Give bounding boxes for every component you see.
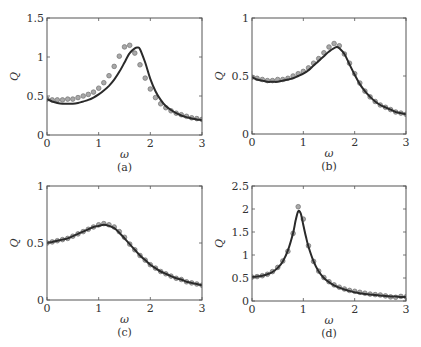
x-axis-label: ω: [325, 314, 334, 327]
x-tick-label: 1: [95, 137, 102, 150]
data-point-marker: [55, 98, 60, 103]
data-point-marker: [112, 64, 117, 69]
data-point-marker: [96, 86, 101, 91]
y-axis-label: Q: [8, 72, 21, 81]
x-tick-label: 3: [403, 136, 410, 149]
model-curve: [47, 225, 202, 285]
data-point-marker: [122, 45, 127, 50]
x-tick-label: 3: [403, 303, 410, 316]
data-point-marker: [332, 41, 337, 46]
panel-d: 012300.511.522.5ωQ(d): [213, 180, 410, 340]
x-tick-label: 0: [44, 137, 51, 150]
y-tick-label: 0: [242, 128, 249, 141]
data-point-marker: [91, 90, 96, 95]
axes-frame: [47, 18, 202, 135]
data-point-marker: [296, 204, 301, 209]
panel-label: (a): [117, 161, 132, 174]
model-curve: [47, 48, 202, 121]
x-tick-label: 0: [249, 136, 256, 149]
panel-a: 012300.511.5ωQ(a): [8, 12, 206, 174]
x-tick-label: 2: [351, 303, 358, 316]
x-tick-label: 0: [249, 303, 256, 316]
y-tick-label: 0.5: [232, 272, 250, 285]
x-tick-label: 1: [300, 136, 307, 149]
data-point-marker: [76, 95, 81, 100]
y-tick-label: 1: [242, 249, 249, 262]
y-tick-label: 0: [37, 294, 44, 307]
data-point-marker: [107, 73, 112, 78]
data-point-marker: [148, 87, 153, 92]
y-tick-label: 2.5: [232, 180, 250, 193]
x-tick-label: 3: [199, 137, 206, 150]
y-tick-label: 1.5: [27, 12, 45, 25]
data-point-marker: [133, 51, 138, 56]
axes-frame: [252, 18, 406, 134]
axes-frame: [47, 186, 202, 300]
data-point-marker: [117, 54, 122, 59]
y-axis-label: Q: [213, 239, 226, 248]
data-point-marker: [102, 80, 107, 85]
data-point-marker: [327, 45, 332, 50]
data-point-marker: [81, 94, 86, 99]
x-axis-label: ω: [325, 147, 334, 160]
x-tick-label: 1: [300, 303, 307, 316]
data-point-marker: [127, 43, 132, 48]
panel-label: (c): [117, 326, 132, 339]
x-tick-label: 3: [199, 302, 206, 315]
x-tick-label: 1: [95, 302, 102, 315]
y-axis-label: Q: [8, 238, 21, 247]
data-markers: [250, 204, 409, 299]
y-tick-label: 0.5: [27, 90, 45, 103]
y-axis-label: Q: [213, 71, 226, 80]
data-point-marker: [138, 63, 143, 68]
figure: 012300.511.5ωQ(a) 012300.51ωQ(b) 012300.…: [0, 0, 421, 347]
data-markers: [45, 221, 205, 287]
data-point-marker: [65, 97, 70, 102]
y-tick-label: 0: [242, 295, 249, 308]
x-tick-label: 2: [351, 136, 358, 149]
data-point-marker: [86, 92, 91, 97]
y-tick-label: 0.5: [27, 237, 45, 250]
x-tick-label: 2: [147, 137, 154, 150]
y-tick-label: 1: [37, 180, 44, 193]
x-tick-label: 0: [44, 302, 51, 315]
y-tick-label: 0: [37, 129, 44, 142]
panel-b: 012300.51ωQ(b): [213, 12, 410, 173]
panel-label: (d): [321, 327, 337, 340]
y-tick-label: 0.5: [232, 70, 250, 83]
y-tick-label: 1: [242, 12, 249, 25]
panel-label: (b): [321, 160, 337, 173]
y-tick-label: 1: [37, 51, 44, 64]
y-tick-label: 2: [242, 203, 249, 216]
x-axis-label: ω: [120, 148, 129, 161]
x-tick-label: 2: [147, 302, 154, 315]
panel-c: 012300.51ωQ(c): [8, 180, 206, 339]
x-axis-label: ω: [120, 313, 129, 326]
data-point-marker: [60, 98, 65, 103]
data-markers: [45, 43, 205, 122]
y-tick-label: 1.5: [232, 226, 250, 239]
data-point-marker: [143, 76, 148, 81]
data-point-marker: [71, 97, 76, 102]
